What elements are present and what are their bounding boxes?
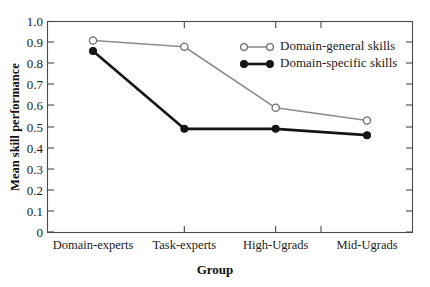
chart-figure: 0 0.1 0.2 0.3 0.4 0.5 0.6 0.7 0.8 0.9 1.… [0,0,430,287]
legend-label: Domain-specific skills [280,55,397,70]
y-axis-ticks-right [406,42,413,232]
y-tick-label: 0.4 [27,141,44,156]
x-axis-ticks-bottom [184,226,321,233]
data-point [272,104,279,111]
y-tick-label: 0.1 [27,204,43,219]
y-tick-label: 0.6 [27,98,44,113]
y-tick-label: 0.3 [27,162,43,177]
data-point [89,37,96,44]
y-axis-ticks-left [48,22,55,233]
legend-entry-domain-general: Domain-general skills [241,38,396,53]
data-point [363,117,370,124]
x-axis-title: Group [197,262,234,277]
x-tick-label: Mid-Ugrads [336,238,397,252]
y-tick-label: 0.2 [27,183,43,198]
y-tick-label: 0.5 [27,120,43,135]
y-tick-label: 0.9 [27,35,43,50]
x-axis-ticks-top [184,22,321,29]
data-point [181,125,188,132]
y-tick-label: 0.8 [27,56,43,71]
data-point [272,125,279,132]
x-tick-label: High-Ugrads [243,238,308,252]
legend-label: Domain-general skills [280,38,395,53]
y-tick-label: 1.0 [27,14,43,29]
data-point [364,132,371,139]
legend-marker-filled-circle-icon [241,61,248,68]
y-tick-label: 0.7 [27,77,44,92]
chart-legend: Domain-general skills Domain-specific sk… [241,38,398,70]
data-point [181,43,188,50]
x-tick-label: Task-experts [152,238,216,252]
data-point [90,48,97,55]
x-tick-label: Domain-experts [53,238,134,252]
y-tick-label: 0 [37,225,44,240]
legend-entry-domain-specific: Domain-specific skills [241,55,398,70]
line-chart: 0 0.1 0.2 0.3 0.4 0.5 0.6 0.7 0.8 0.9 1.… [0,0,430,287]
legend-marker-open-circle-icon [267,44,274,51]
legend-marker-open-circle-icon [241,44,248,51]
y-tick-labels: 0 0.1 0.2 0.3 0.4 0.5 0.6 0.7 0.8 0.9 1.… [27,14,44,240]
x-tick-labels: Domain-experts Task-experts High-Ugrads … [53,238,398,252]
y-axis-title: Mean skill performance [8,63,22,191]
legend-marker-filled-circle-icon [267,61,274,68]
